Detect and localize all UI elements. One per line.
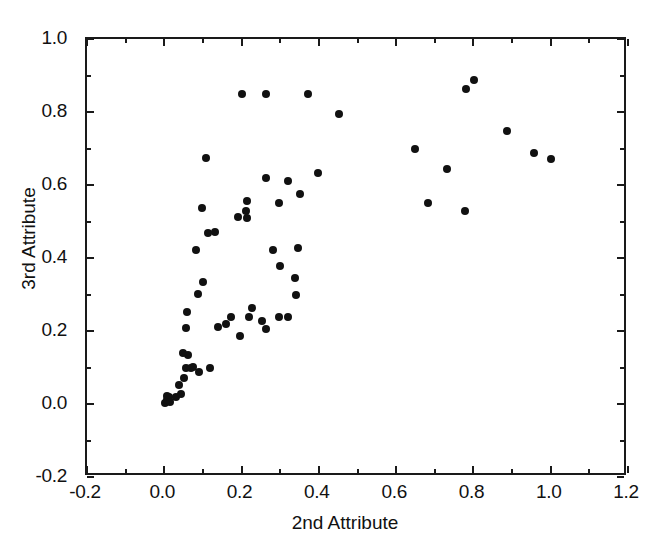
x-tick-label: 0.2 bbox=[227, 482, 253, 501]
data-point bbox=[284, 177, 292, 185]
data-point bbox=[291, 274, 299, 282]
y-axis-tick bbox=[620, 440, 624, 442]
data-points-layer bbox=[87, 39, 624, 473]
data-point bbox=[175, 381, 183, 389]
y-tick-label: 0.2 bbox=[41, 320, 67, 339]
y-tick-label: 0.4 bbox=[41, 247, 67, 266]
data-point bbox=[424, 199, 432, 207]
x-axis-tick bbox=[86, 466, 88, 473]
x-axis-tick bbox=[434, 469, 436, 473]
y-axis-tick bbox=[620, 148, 624, 150]
x-axis-tick bbox=[125, 469, 127, 473]
y-axis-tick bbox=[87, 257, 94, 259]
y-axis-tick bbox=[87, 367, 91, 369]
y-axis-tick bbox=[87, 294, 91, 296]
data-point bbox=[462, 85, 470, 93]
y-axis-tick bbox=[620, 221, 624, 223]
y-tick-label: 0.6 bbox=[41, 174, 67, 193]
x-axis-tick bbox=[588, 39, 590, 43]
x-axis-tick bbox=[163, 466, 165, 473]
data-point bbox=[296, 190, 304, 198]
data-point bbox=[530, 149, 538, 157]
x-axis-tick bbox=[318, 466, 320, 473]
data-point bbox=[177, 390, 185, 398]
data-point bbox=[443, 165, 451, 173]
x-axis-tick bbox=[550, 466, 552, 473]
y-axis-tick bbox=[87, 184, 94, 186]
x-axis-tick bbox=[472, 39, 474, 46]
y-axis-tick bbox=[617, 38, 624, 40]
data-point bbox=[269, 246, 277, 254]
x-axis-tick bbox=[472, 466, 474, 473]
y-tick-label: -0.2 bbox=[35, 466, 67, 485]
y-axis-tick bbox=[87, 148, 91, 150]
x-axis-tick bbox=[318, 39, 320, 46]
x-axis-tick bbox=[395, 39, 397, 46]
data-point bbox=[242, 207, 250, 215]
data-point bbox=[461, 207, 469, 215]
x-axis-tick bbox=[511, 469, 513, 473]
y-axis-title-text: 3rd Attribute bbox=[18, 187, 39, 289]
y-axis-tick bbox=[87, 403, 94, 405]
x-axis-tick bbox=[279, 39, 281, 43]
y-axis-tick bbox=[87, 440, 91, 442]
y-axis-title: 3rd Attribute bbox=[18, 119, 39, 359]
y-axis-tick bbox=[617, 184, 624, 186]
data-point bbox=[227, 313, 235, 321]
x-axis-tick bbox=[627, 466, 629, 473]
data-point bbox=[262, 90, 270, 98]
x-axis-tick bbox=[588, 469, 590, 473]
data-point bbox=[192, 246, 200, 254]
y-axis-tick bbox=[617, 476, 624, 478]
data-point bbox=[179, 349, 187, 357]
y-axis-tick bbox=[617, 330, 624, 332]
x-tick-label: 0.4 bbox=[304, 482, 330, 501]
data-point bbox=[180, 374, 188, 382]
data-point bbox=[547, 155, 555, 163]
x-axis-tick bbox=[550, 39, 552, 46]
x-axis-tick bbox=[627, 39, 629, 46]
data-point bbox=[245, 313, 253, 321]
data-point bbox=[470, 76, 478, 84]
data-point bbox=[275, 313, 283, 321]
data-point bbox=[206, 364, 214, 372]
y-axis-tick bbox=[617, 403, 624, 405]
y-axis-tick bbox=[87, 221, 91, 223]
data-point bbox=[199, 278, 207, 286]
data-point bbox=[195, 368, 203, 376]
data-point bbox=[234, 213, 242, 221]
data-point bbox=[236, 332, 244, 340]
data-point bbox=[198, 204, 206, 212]
x-axis-tick bbox=[279, 469, 281, 473]
data-point bbox=[238, 90, 246, 98]
x-axis-tick bbox=[163, 39, 165, 46]
y-axis-tick bbox=[87, 111, 94, 113]
data-point bbox=[202, 154, 210, 162]
data-point bbox=[243, 214, 251, 222]
data-point bbox=[243, 197, 251, 205]
data-point bbox=[248, 304, 256, 312]
data-point bbox=[503, 127, 511, 135]
y-axis-tick bbox=[87, 330, 94, 332]
data-point bbox=[335, 110, 343, 118]
y-axis-tick bbox=[87, 38, 94, 40]
data-point bbox=[211, 228, 219, 236]
x-axis-tick bbox=[241, 466, 243, 473]
data-point bbox=[294, 244, 302, 252]
x-tick-label: 1.2 bbox=[613, 482, 639, 501]
y-tick-label: 1.0 bbox=[41, 28, 67, 47]
x-axis-title-text: 2nd Attribute bbox=[264, 512, 399, 533]
y-axis-tick bbox=[617, 257, 624, 259]
data-point bbox=[304, 90, 312, 98]
x-tick-label: 1.0 bbox=[536, 482, 562, 501]
x-axis-tick bbox=[434, 39, 436, 43]
scatter-plot-figure: -0.20.00.20.40.60.81.01.2 -0.20.00.20.40… bbox=[0, 0, 662, 546]
y-axis-tick bbox=[87, 476, 94, 478]
data-point bbox=[258, 317, 266, 325]
x-axis-tick bbox=[86, 39, 88, 46]
data-point bbox=[284, 313, 292, 321]
x-axis-tick bbox=[202, 469, 204, 473]
x-axis-tick bbox=[357, 469, 359, 473]
data-point bbox=[182, 324, 190, 332]
x-axis-title: 2nd Attribute bbox=[0, 512, 662, 533]
